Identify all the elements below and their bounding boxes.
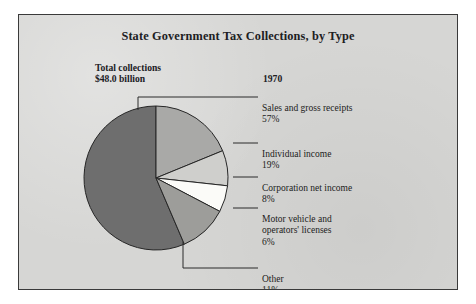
callout-label-sales-and-gross-receipts: Sales and gross receipts xyxy=(262,103,353,113)
pie-chart xyxy=(19,15,458,290)
leader-line-other xyxy=(183,242,258,268)
figure-panel: State Government Tax Collections, by Typ… xyxy=(18,14,458,290)
callout-percent-other: 11% xyxy=(262,285,284,290)
callout-label-other: Other xyxy=(262,274,284,284)
callout-percent-motor-vehicle-licenses: 6% xyxy=(262,237,332,248)
callout-percent-individual-income: 19% xyxy=(262,160,331,171)
callout-sales-and-gross-receipts: Sales and gross receipts 57% xyxy=(262,92,353,137)
callout-other: Other 11% xyxy=(262,263,284,290)
callout-label-corporation-net-income: Corporation net income xyxy=(262,183,352,193)
callout-label-individual-income: Individual income xyxy=(262,149,331,159)
callout-motor-vehicle-licenses: Motor vehicle and operators' licenses 6% xyxy=(262,203,332,259)
callout-label-motor-vehicle-licenses: Motor vehicle and operators' licenses xyxy=(262,214,332,235)
callout-percent-sales-and-gross-receipts: 57% xyxy=(262,114,353,125)
pie-slices xyxy=(84,106,228,250)
